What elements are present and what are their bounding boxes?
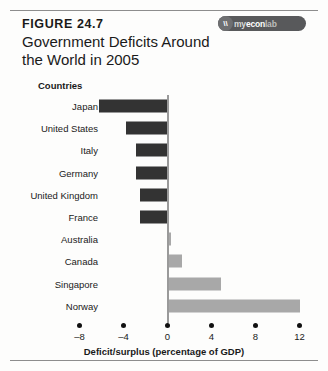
- x-tick-dot: [121, 323, 126, 328]
- x-tick-dot: [253, 323, 258, 328]
- logo-text-lab: lab: [265, 19, 277, 29]
- chart-row: Germany: [0, 162, 328, 184]
- bar-united-kingdom: [140, 188, 168, 201]
- figure-number: FIGURE 24.7: [22, 17, 104, 31]
- category-label: France: [68, 212, 98, 223]
- category-label: United Kingdom: [30, 189, 98, 200]
- myeconlab-mark-icon: \\: [218, 16, 233, 31]
- x-tick-label: 4: [209, 331, 214, 342]
- bar-italy: [136, 144, 168, 157]
- bar-united-states: [126, 122, 168, 135]
- chart-row: Japan: [0, 95, 328, 117]
- category-label: Japan: [72, 101, 98, 112]
- logo-text-econ: econ: [246, 19, 265, 29]
- x-tick-label: 12: [294, 331, 305, 342]
- chart-row: France: [0, 206, 328, 228]
- bar-japan: [99, 100, 167, 113]
- chart-row: United Kingdom: [0, 184, 328, 206]
- chart-row: United States: [0, 117, 328, 139]
- x-tick-label: 8: [253, 331, 258, 342]
- x-tick-dot: [77, 323, 82, 328]
- chart-row: Australia: [0, 228, 328, 250]
- category-label: Italy: [81, 145, 98, 156]
- category-label: Germany: [59, 167, 98, 178]
- category-label: Australia: [61, 234, 98, 245]
- bar-norway: [168, 299, 300, 312]
- figure-title: Government Deficits Around the World in …: [22, 33, 212, 69]
- bar-germany: [136, 166, 168, 179]
- x-tick-dot: [297, 323, 302, 328]
- bar-france: [140, 211, 168, 224]
- bottom-divider: [10, 360, 318, 361]
- chart-row: Singapore: [0, 273, 328, 295]
- myeconlab-logo: \\ my econ lab: [218, 16, 306, 31]
- chart-row: Canada: [0, 250, 328, 272]
- category-label: United States: [41, 123, 98, 134]
- x-tick-dot: [165, 323, 170, 328]
- logo-text-my: my: [234, 19, 246, 29]
- x-tick-label: –8: [74, 331, 85, 342]
- category-label: Norway: [66, 300, 98, 311]
- x-tick-label: 0: [165, 331, 170, 342]
- chart-row: Italy: [0, 139, 328, 161]
- x-axis: Deficit/surplus (percentage of GDP) –8–4…: [0, 320, 328, 360]
- bar-singapore: [168, 277, 222, 290]
- bar-canada: [168, 255, 182, 268]
- x-tick-dot: [209, 323, 214, 328]
- x-tick-label: –4: [118, 331, 129, 342]
- x-axis-title: Deficit/surplus (percentage of GDP): [0, 346, 328, 357]
- figure-panel: FIGURE 24.7 Government Deficits Around t…: [0, 0, 328, 371]
- zero-baseline: [167, 95, 169, 323]
- bar-chart-plot-area: JapanUnited StatesItalyGermanyUnited Kin…: [0, 95, 328, 320]
- top-divider: [10, 10, 318, 11]
- chart-row: Norway: [0, 295, 328, 317]
- y-axis-title: Countries: [38, 80, 82, 91]
- category-label: Canada: [65, 256, 98, 267]
- category-label: Singapore: [55, 278, 98, 289]
